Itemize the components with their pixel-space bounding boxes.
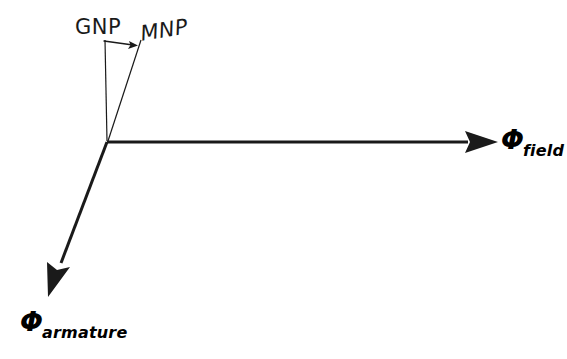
mnp-construction-line — [108, 40, 141, 141]
arrow-down-left-icon — [47, 262, 70, 297]
phi-symbol: Φ — [20, 306, 43, 337]
phi-field-label: Φfield — [501, 126, 565, 153]
phi-symbol: Φ — [501, 124, 524, 155]
gnp-construction-line — [105, 40, 107, 141]
pointer-arrow-shaft — [104, 41, 133, 45]
armature-flux-vector — [47, 142, 107, 297]
mnp-pointer-arrow — [104, 41, 138, 49]
phasor-diagram: GNP MNP Φfield Φarmature — [0, 0, 567, 359]
armature-vector-shaft — [61, 142, 107, 263]
vector-canvas — [0, 0, 567, 359]
arrow-right-icon — [465, 131, 498, 153]
phi-field-subscript: field — [523, 141, 564, 160]
gnp-label: GNP — [75, 17, 121, 38]
phi-armature-label: Φarmature — [20, 308, 129, 335]
phi-armature-subscript: armature — [42, 323, 128, 342]
field-flux-vector — [107, 131, 498, 153]
